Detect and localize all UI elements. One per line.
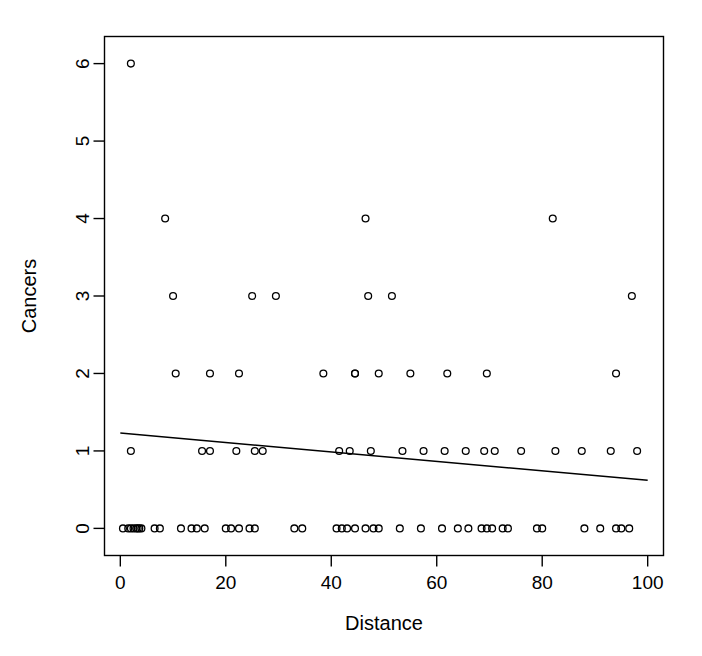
x-tick-label-20: 20 (215, 572, 236, 593)
x-tick-label-100: 100 (632, 572, 664, 593)
y-tick-label-4: 4 (72, 213, 93, 224)
y-tick-label-3: 3 (72, 291, 93, 302)
scatter-plot-figure: 020406080100 0123456 Distance Cancers (0, 0, 702, 656)
x-tick-label-80: 80 (532, 572, 553, 593)
x-tick-label-0: 0 (115, 572, 126, 593)
x-tick-label-40: 40 (321, 572, 342, 593)
y-tick-label-2: 2 (72, 368, 93, 379)
y-tick-label-1: 1 (72, 446, 93, 457)
x-axis-title: Distance (345, 612, 423, 634)
y-axis-title: Cancers (18, 259, 40, 333)
x-tick-label-60: 60 (426, 572, 447, 593)
plot-canvas: 020406080100 0123456 Distance Cancers (0, 0, 702, 656)
y-tick-label-0: 0 (72, 523, 93, 534)
plot-background (0, 0, 702, 656)
y-tick-label-5: 5 (72, 136, 93, 147)
y-tick-label-6: 6 (72, 58, 93, 69)
